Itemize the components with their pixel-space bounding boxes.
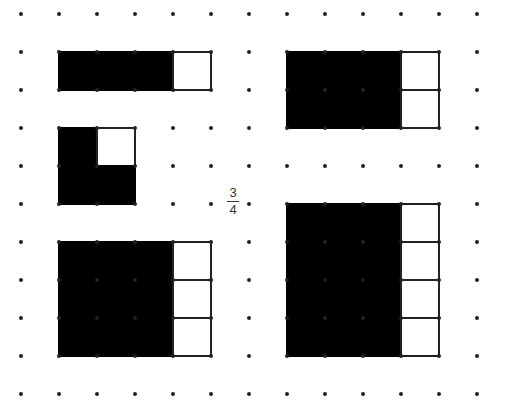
grid-dot — [437, 12, 441, 16]
shape-bar-1x4 — [59, 52, 211, 90]
grid-dot — [209, 316, 213, 320]
grid-dot — [247, 126, 251, 130]
grid-dot — [399, 316, 403, 320]
grid-dot — [95, 354, 99, 358]
grid-dot — [475, 88, 479, 92]
grid-dot — [209, 126, 213, 130]
grid-dot — [247, 316, 251, 320]
empty-cell — [401, 242, 439, 280]
grid-dot — [399, 240, 403, 244]
grid-dot — [361, 126, 365, 130]
grid-dot — [247, 278, 251, 282]
grid-dot — [361, 88, 365, 92]
filled-cell — [287, 204, 325, 242]
grid-dot — [475, 240, 479, 244]
fraction-numerator: 3 — [229, 185, 236, 200]
empty-cell — [401, 52, 439, 90]
grid-dot — [95, 50, 99, 54]
grid-dot — [57, 12, 61, 16]
grid-dot — [57, 354, 61, 358]
grid-dot — [95, 240, 99, 244]
empty-cell — [173, 52, 211, 90]
grid-dot — [361, 50, 365, 54]
grid-dot — [285, 126, 289, 130]
filled-cell — [287, 280, 325, 318]
grid-dot — [19, 278, 23, 282]
grid-dot — [95, 126, 99, 130]
grid-dot — [57, 126, 61, 130]
grid-dot — [475, 12, 479, 16]
grid-dot — [247, 240, 251, 244]
grid-dot — [171, 354, 175, 358]
filled-cell — [135, 280, 173, 318]
grid-dot — [437, 126, 441, 130]
grid-dot — [475, 354, 479, 358]
grid-dot — [475, 316, 479, 320]
grid-dot — [323, 240, 327, 244]
grid-dot — [209, 12, 213, 16]
grid-dot — [323, 126, 327, 130]
grid-dot — [475, 126, 479, 130]
grid-dot — [95, 202, 99, 206]
filled-cell — [97, 280, 135, 318]
fraction-label: 3 4 — [225, 186, 241, 217]
grid-dot — [437, 278, 441, 282]
grid-dot — [475, 50, 479, 54]
grid-dot — [209, 354, 213, 358]
grid-dot — [57, 50, 61, 54]
grid-dot — [171, 202, 175, 206]
grid-dot — [133, 164, 137, 168]
grid-dot — [171, 50, 175, 54]
grid-dot — [133, 202, 137, 206]
grid-dot — [95, 164, 99, 168]
grid-dot — [133, 354, 137, 358]
grid-dot — [323, 392, 327, 396]
grid-dot — [399, 278, 403, 282]
grid-dot — [475, 278, 479, 282]
grid-dot — [399, 164, 403, 168]
filled-cell — [97, 166, 135, 204]
grid-dot — [247, 88, 251, 92]
grid-dot — [285, 278, 289, 282]
grid-dot — [57, 240, 61, 244]
grid-dot — [361, 278, 365, 282]
filled-cell — [59, 166, 97, 204]
grid-dot — [209, 202, 213, 206]
grid-dot — [57, 392, 61, 396]
grid-dot — [361, 354, 365, 358]
grid-dot — [171, 88, 175, 92]
grid-dot — [361, 12, 365, 16]
grid-dot — [247, 202, 251, 206]
grid-dot — [133, 316, 137, 320]
grid-dot — [19, 12, 23, 16]
filled-cell — [59, 52, 97, 90]
empty-cell — [173, 242, 211, 280]
grid-dot — [399, 354, 403, 358]
grid-dot — [133, 392, 137, 396]
filled-cell — [135, 318, 173, 356]
grid-dot — [399, 202, 403, 206]
grid-dot — [437, 50, 441, 54]
grid-dot — [323, 278, 327, 282]
grid-dot — [133, 278, 137, 282]
filled-cell — [325, 52, 363, 90]
grid-dot — [95, 88, 99, 92]
grid-dot — [133, 88, 137, 92]
grid-dot — [323, 12, 327, 16]
grid-dot — [437, 240, 441, 244]
grid-dot — [285, 240, 289, 244]
grid-dot — [285, 202, 289, 206]
filled-cell — [363, 242, 401, 280]
grid-dot — [95, 392, 99, 396]
grid-dot — [19, 126, 23, 130]
grid-dot — [399, 50, 403, 54]
filled-cell — [59, 280, 97, 318]
grid-dot — [361, 164, 365, 168]
grid-dot — [95, 12, 99, 16]
grid-dot — [133, 240, 137, 244]
grid-dot — [247, 354, 251, 358]
filled-cell — [363, 52, 401, 90]
grid-dot — [475, 202, 479, 206]
grid-dot — [171, 126, 175, 130]
filled-cell — [363, 90, 401, 128]
